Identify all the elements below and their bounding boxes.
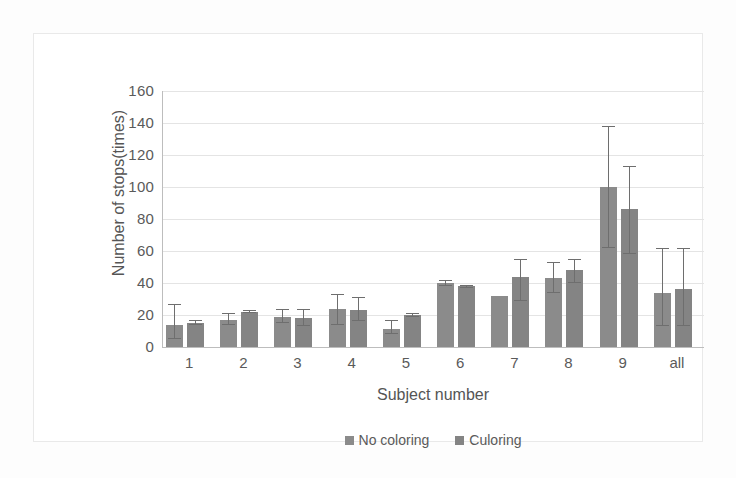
bar [458,286,475,347]
legend-item: Culoring [455,432,521,448]
error-bar [195,320,196,325]
bar-group [596,91,650,347]
error-bar-cap-top [406,313,419,314]
legend-label: Culoring [469,432,521,448]
error-bar [445,280,446,286]
x-tick-label: 2 [215,354,271,371]
error-bar-cap-bottom [623,253,636,254]
error-bar-cap-bottom [189,324,202,325]
error-bar-cap-bottom [385,333,398,334]
error-bar-cap-bottom [568,282,581,283]
error-bar [574,259,575,283]
error-bar [228,313,229,324]
error-bar [629,166,630,254]
y-axis-title: Number of stops(times) [110,73,128,313]
legend-swatch [455,436,464,445]
error-bar-cap-top [331,294,344,295]
error-bar-cap-bottom [297,325,310,326]
error-bar-cap-bottom [276,322,289,323]
error-bar-cap-top [385,320,398,321]
error-bar-cap-top [439,280,452,281]
error-bar [662,248,663,326]
error-bar [553,262,554,292]
bar-group [379,91,433,347]
bar-group [216,91,270,347]
error-bar [466,285,467,288]
x-tick-label: 5 [378,354,434,371]
x-tick-label: 6 [432,354,488,371]
error-bar-cap-top [352,297,365,298]
error-bar [412,313,413,316]
error-bar-cap-bottom [460,287,473,288]
error-bar-cap-bottom [602,247,615,248]
bar [187,323,204,347]
error-bar-cap-top [276,309,289,310]
error-bar-cap-bottom [331,324,344,325]
error-bar-cap-bottom [352,320,365,321]
chart-frame: 020406080100120140160 Number of stops(ti… [33,33,703,442]
error-bar-cap-bottom [243,312,256,313]
x-tick-label: 1 [161,354,217,371]
error-bar-cap-top [297,309,310,310]
error-bar-cap-top [243,310,256,311]
error-bar-cap-bottom [439,285,452,286]
error-bar-cap-top [189,320,202,321]
x-tick-label: all [649,354,705,371]
error-bar-cap-top [568,259,581,260]
x-tick-label: 3 [270,354,326,371]
x-tick-label: 4 [324,354,380,371]
error-bar [303,309,304,327]
error-bar-cap-top [168,304,181,305]
legend-swatch [345,436,354,445]
bar-group [433,91,487,347]
bar-group [541,91,595,347]
error-bar-cap-bottom [677,325,690,326]
error-bar-cap-bottom [406,316,419,317]
error-bar [282,309,283,323]
error-bar [337,294,338,324]
x-tick-label: 7 [486,354,542,371]
legend-label: No coloring [359,432,430,448]
bar-group [325,91,379,347]
error-bar [391,320,392,334]
bar [241,312,258,347]
error-bar-cap-top [623,166,636,167]
error-bar-cap-top [677,248,690,249]
error-bar-cap-top [460,285,473,286]
x-tick-label: 8 [541,354,597,371]
bar-group [487,91,541,347]
bar [491,296,508,347]
bar [404,315,421,347]
y-tick-label: 0 [114,339,154,354]
error-bar-cap-top [547,262,560,263]
error-bar-cap-bottom [547,292,560,293]
error-bar [683,248,684,326]
error-bar-cap-bottom [222,324,235,325]
legend-item: No coloring [345,432,430,448]
error-bar-cap-bottom [656,325,669,326]
bar-group [270,91,324,347]
error-bar-cap-top [602,126,615,127]
error-bar-cap-top [514,259,527,260]
bar-group [162,91,216,347]
plot-area [162,91,704,347]
x-tick-label: 9 [595,354,651,371]
error-bar [608,126,609,248]
error-bar [174,304,175,339]
error-bar-cap-top [222,313,235,314]
error-bar [520,259,521,301]
x-axis-title: Subject number [162,386,704,404]
error-bar [358,297,359,321]
error-bar [249,310,250,313]
error-bar-cap-bottom [514,300,527,301]
bar [437,283,454,347]
error-bar-cap-bottom [168,338,181,339]
x-axis-line [162,347,704,348]
y-axis-line [162,91,163,348]
bar-group [650,91,704,347]
error-bar-cap-top [656,248,669,249]
chart-legend: No coloringCuloring [162,432,704,448]
